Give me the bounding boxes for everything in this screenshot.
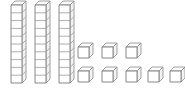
unit-cube-6-front-face xyxy=(126,71,137,82)
unit-cube-5 xyxy=(102,67,117,82)
tens-rod-2 xyxy=(35,1,50,83)
unit-cube-2 xyxy=(102,43,117,58)
unit-cube-1 xyxy=(78,43,93,58)
tens-rod-3 xyxy=(59,1,74,83)
tens-rod-1 xyxy=(11,1,26,83)
unit-cube-2-front-face xyxy=(102,47,113,58)
unit-cube-4-front-face xyxy=(78,71,89,82)
unit-cube-6 xyxy=(126,67,141,82)
base-ten-blocks-canvas: Three tens rods and eight unit cubes xyxy=(0,0,185,89)
blocks-illustration xyxy=(0,0,185,89)
unit-cube-3 xyxy=(126,43,141,58)
unit-cube-8 xyxy=(170,67,185,82)
unit-cube-3-front-face xyxy=(126,47,137,58)
unit-cube-1-front-face xyxy=(78,47,89,58)
unit-cube-4 xyxy=(78,67,93,82)
unit-cube-5-front-face xyxy=(102,71,113,82)
unit-cube-7-front-face xyxy=(148,71,159,82)
unit-cube-7 xyxy=(148,67,163,82)
unit-cube-8-front-face xyxy=(170,71,181,82)
